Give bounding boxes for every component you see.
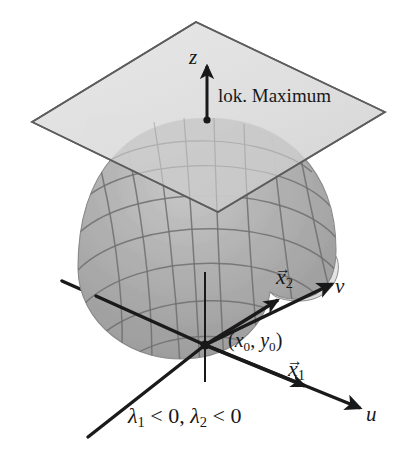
critical-point-marker xyxy=(200,340,209,349)
lambda-2-inequality: < 0 xyxy=(207,403,241,428)
lambda-2-symbol: λ xyxy=(190,403,200,428)
critical-point-y-subscript: 0 xyxy=(269,339,276,354)
lambda-2-subscript: 2 xyxy=(200,414,207,430)
eigenvalue-condition-label: λ1 < 0, λ2 < 0 xyxy=(128,405,241,430)
local-maximum-label: lok. Maximum xyxy=(218,86,331,105)
critical-point-separator: , xyxy=(250,329,260,351)
lambda-1-inequality: < 0, xyxy=(145,403,190,428)
critical-point-y: y xyxy=(260,329,269,351)
local-maximum-diagram xyxy=(0,0,417,467)
eigenvector-x2-label: →x2 xyxy=(276,266,293,291)
paren-open: ( xyxy=(228,329,235,351)
vector-accent-icon: → xyxy=(275,261,285,277)
eigenvector-x1-label: →x1 xyxy=(288,358,305,383)
paren-close: ) xyxy=(276,329,283,351)
z-axis-label: z xyxy=(189,47,197,68)
critical-point-label: (x0, y0) xyxy=(228,330,282,353)
eigenvector-x1-subscript: 1 xyxy=(298,367,305,383)
lambda-1-subscript: 1 xyxy=(138,414,145,430)
lambda-1-symbol: λ xyxy=(128,403,138,428)
local-maximum-point-marker xyxy=(203,116,210,123)
critical-point-x: x xyxy=(235,329,244,351)
u-axis-label: u xyxy=(366,404,377,425)
eigenvector-x2-subscript: 2 xyxy=(286,275,293,291)
v-axis-label: v xyxy=(335,276,344,297)
vector-accent-icon: → xyxy=(287,353,297,369)
figure-root: z lok. Maximum v u →x2 →x1 (x0, y0) λ1 <… xyxy=(0,0,417,467)
